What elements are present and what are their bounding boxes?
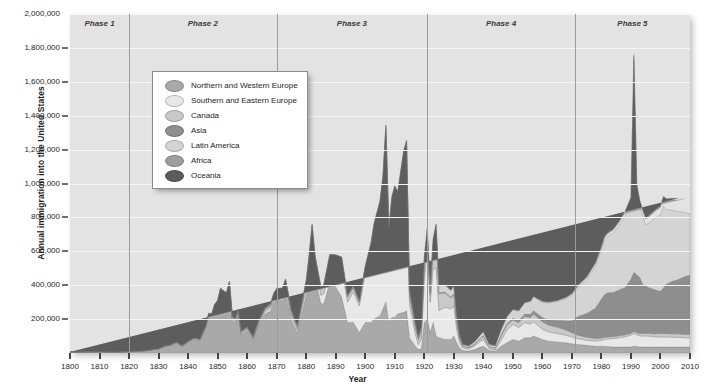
x-tick-mark	[187, 353, 189, 359]
phase-label-1: Phase 1	[70, 19, 140, 28]
y-axis-tick-labels: 200,000400,000600,000800,0001,000,0001,2…	[0, 0, 60, 391]
x-tick-mark	[482, 353, 484, 359]
x-tick-mark	[364, 353, 366, 359]
x-tick-mark	[423, 353, 425, 359]
x-tick-mark	[158, 353, 160, 359]
x-tick-mark	[630, 353, 632, 359]
legend-swatch-icon	[165, 80, 184, 92]
y-tick-label: 400,000	[0, 280, 60, 289]
x-tick-mark	[276, 353, 278, 359]
x-tick-mark	[246, 353, 248, 359]
y-tick-mark	[62, 149, 68, 151]
gridline	[70, 285, 690, 286]
y-tick-mark	[62, 47, 68, 49]
legend-item: Northern and Western Europe	[153, 78, 307, 93]
gridline	[70, 217, 690, 218]
phase-divider	[427, 14, 428, 353]
x-tick-mark	[99, 353, 101, 359]
y-tick-mark	[62, 183, 68, 185]
y-tick-mark	[62, 250, 68, 252]
x-tick-mark	[305, 353, 307, 359]
legend-label: Asia	[191, 126, 207, 135]
legend-swatch-icon	[165, 140, 184, 152]
x-tick-mark	[659, 353, 661, 359]
legend-swatch-icon	[165, 170, 184, 182]
legend-item: Oceania	[153, 168, 307, 183]
phase-label-2: Phase 2	[163, 19, 243, 28]
phase-label-4: Phase 4	[461, 19, 541, 28]
x-tick-mark	[512, 353, 514, 359]
y-tick-label: 200,000	[0, 314, 60, 323]
x-tick-mark	[128, 353, 130, 359]
x-axis: 1800181018201830184018501860187018801890…	[70, 353, 690, 391]
gridline	[70, 14, 690, 15]
legend-item: Canada	[153, 108, 307, 123]
immigration-area-chart: Annual immigration into the United State…	[0, 0, 715, 391]
y-tick-mark	[62, 318, 68, 320]
y-tick-mark	[62, 115, 68, 117]
x-tick-mark	[541, 353, 543, 359]
y-tick-label: 600,000	[0, 246, 60, 255]
legend-label: Northern and Western Europe	[191, 81, 298, 90]
x-tick-mark	[394, 353, 396, 359]
legend-swatch-icon	[165, 95, 184, 107]
x-tick-mark	[335, 353, 337, 359]
y-tick-mark	[62, 216, 68, 218]
y-tick-label: 1,800,000	[0, 43, 60, 52]
legend-item: Southern and Eastern Europe	[153, 93, 307, 108]
phase-divider	[575, 14, 576, 353]
legend-label: Southern and Eastern Europe	[191, 96, 297, 105]
y-tick-label: 1,000,000	[0, 179, 60, 188]
legend-swatch-icon	[165, 155, 184, 167]
x-tick-mark	[571, 353, 573, 359]
gridline	[70, 319, 690, 320]
y-tick-label: 800,000	[0, 212, 60, 221]
gridline	[70, 48, 690, 49]
phase-divider	[129, 14, 130, 353]
legend-swatch-icon	[165, 125, 184, 137]
chart-legend: Northern and Western EuropeSouthern and …	[152, 71, 308, 189]
x-tick-mark	[600, 353, 602, 359]
x-tick-mark	[689, 353, 691, 359]
y-tick-label: 1,600,000	[0, 77, 60, 86]
phase-label-3: Phase 3	[312, 19, 392, 28]
legend-item: Africa	[153, 153, 307, 168]
gridline	[70, 251, 690, 252]
y-tick-label: 1,400,000	[0, 111, 60, 120]
legend-item: Asia	[153, 123, 307, 138]
legend-item: Latin America	[153, 138, 307, 153]
legend-label: Canada	[191, 111, 219, 120]
y-tick-mark	[62, 284, 68, 286]
legend-label: Oceania	[191, 171, 221, 180]
x-tick-mark	[453, 353, 455, 359]
phase-label-5: Phase 5	[592, 19, 672, 28]
legend-swatch-icon	[165, 110, 184, 122]
x-tick-mark	[217, 353, 219, 359]
legend-label: Africa	[191, 156, 211, 165]
x-axis-title: Year	[0, 374, 715, 384]
x-tick-label: 2010	[670, 362, 710, 371]
y-tick-label: 2,000,000	[0, 9, 60, 18]
y-tick-mark	[62, 81, 68, 83]
legend-label: Latin America	[191, 141, 239, 150]
y-tick-label: 1,200,000	[0, 145, 60, 154]
x-tick-mark	[69, 353, 71, 359]
